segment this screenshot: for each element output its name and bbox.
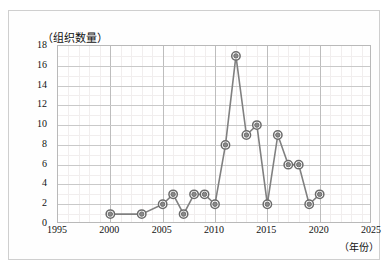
data-point	[106, 210, 114, 218]
x-tick-label: 2000	[89, 225, 129, 235]
x-tick-label: 2020	[299, 225, 339, 235]
y-tick-label: 18	[23, 40, 47, 50]
y-tick-label: 4	[23, 178, 47, 188]
data-point	[169, 190, 177, 198]
data-point	[190, 190, 198, 198]
y-tick-label: 6	[23, 159, 47, 169]
y-tick-label: 2	[23, 198, 47, 208]
x-tick-label: 2010	[194, 225, 234, 235]
data-point	[221, 141, 229, 149]
x-tick-label: 2025	[351, 225, 390, 235]
x-tick-label: 2005	[142, 225, 182, 235]
y-tick-label: 8	[23, 139, 47, 149]
series-markers	[106, 52, 324, 219]
data-point	[295, 160, 303, 168]
data-point	[200, 190, 208, 198]
plot-area	[57, 45, 371, 223]
data-point	[138, 210, 146, 218]
data-point	[263, 200, 271, 208]
y-tick-label: 16	[23, 60, 47, 70]
y-axis-title: （组织数量）	[42, 29, 108, 45]
data-point	[242, 131, 250, 139]
x-tick-label: 2015	[246, 225, 286, 235]
data-point	[211, 200, 219, 208]
data-point	[158, 200, 166, 208]
line-series-svg	[58, 46, 371, 223]
chart-card: （组织数量） 024681012141618 19952000200520102…	[8, 10, 380, 260]
data-point	[232, 52, 240, 60]
series-line	[110, 56, 319, 214]
x-axis-title: （年份）	[339, 239, 379, 254]
chart-screenshot: （组织数量） 024681012141618 19952000200520102…	[0, 0, 390, 271]
x-tick-label: 1995	[37, 225, 77, 235]
data-point	[274, 131, 282, 139]
data-point	[315, 190, 323, 198]
data-point	[284, 160, 292, 168]
y-tick-label: 14	[23, 80, 47, 90]
y-tick-label: 12	[23, 99, 47, 109]
y-tick-label: 10	[23, 119, 47, 129]
data-point	[253, 121, 261, 129]
data-point	[305, 200, 313, 208]
data-point	[179, 210, 187, 218]
